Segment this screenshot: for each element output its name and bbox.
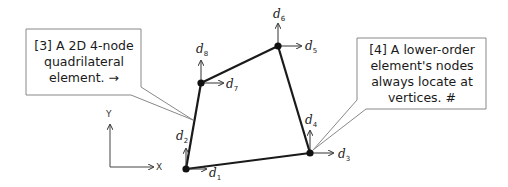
node-1 (182, 165, 189, 172)
d3-label: d3 (338, 147, 350, 163)
element-edges (186, 46, 310, 169)
callout-left-line-2: quadrilateral (27, 54, 141, 70)
node-2 (306, 149, 313, 156)
callout-right-line-3: always locate at (358, 74, 486, 90)
callout-right-line-1: [4] A lower-order (358, 42, 486, 58)
d4-label: d4 (305, 113, 318, 129)
node-4 (197, 79, 204, 86)
callout-right-text: [4] A lower-order element's nodes always… (358, 42, 486, 106)
edge-1-2 (186, 153, 310, 169)
d2-label: d2 (176, 129, 188, 145)
nodes (182, 42, 313, 172)
node-3 (274, 42, 281, 49)
coordinate-axes (110, 125, 153, 167)
edge-3-4 (201, 46, 278, 83)
y-axis-label: Y (105, 109, 112, 119)
edge-4-1 (186, 83, 201, 169)
callout-right-line-4: vertices. # (358, 90, 486, 106)
d6-label: d6 (273, 7, 286, 23)
d5-label: d5 (305, 39, 317, 55)
x-axis-label: X (156, 162, 162, 172)
d8-label: d8 (196, 42, 208, 58)
callout-right-line-2: element's nodes (358, 58, 486, 74)
d7-label: d7 (226, 77, 238, 93)
dof-labels: d1 d2 d3 d4 d5 d6 d7 d8 (176, 7, 350, 182)
d1-label: d1 (209, 166, 221, 182)
callout-left-line-3: element. → (27, 70, 141, 86)
callout-left-line-1: [3] A 2D 4-node (27, 38, 141, 54)
edge-2-3 (278, 46, 310, 153)
callout-left-text: [3] A 2D 4-node quadrilateral element. → (27, 38, 141, 86)
